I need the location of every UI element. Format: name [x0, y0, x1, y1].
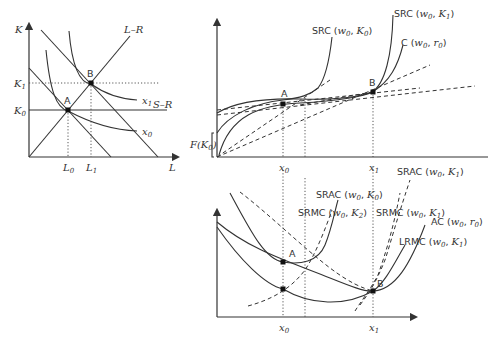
svg-text:K0: K0	[13, 105, 26, 118]
svg-text:x1: x1	[369, 322, 379, 335]
short-run-label: S–R	[153, 99, 173, 110]
economics-figure: K L L–R S–R x1 x0 K1 K0 L0 L1 A B	[0, 0, 488, 347]
src-k0-label: SRC (w0, K0)	[312, 25, 372, 38]
svg-text:x0: x0	[279, 162, 290, 175]
l-axis-label: L	[168, 162, 176, 173]
point-b	[371, 90, 376, 95]
svg-text:F(K0): F(K0)	[189, 139, 217, 152]
point-a-label: A	[289, 248, 296, 259]
long-run-label: L–R	[123, 24, 144, 35]
ac-label: AC (w0, r0)	[431, 216, 483, 229]
isoquant-panel: K L L–R S–R x1 x0 K1 K0 L0 L1 A B	[13, 24, 176, 175]
svg-text:L0: L0	[62, 162, 75, 175]
svg-text:x1: x1	[142, 95, 152, 108]
lr-cost-label: C (w0, r0)	[401, 37, 446, 50]
src-k1-label: SRC (w0, K1)	[394, 8, 454, 21]
srmc-k2-label: SRMC (w0, K2)	[298, 207, 367, 220]
k-axis-label: K	[14, 24, 23, 35]
total-cost-panel: F(K0) SRC (w0, K0) SRC (w0, K1) C (w0, r…	[189, 8, 488, 175]
srac-k0-curve	[230, 193, 338, 263]
point-a-lower	[281, 287, 286, 292]
unit-cost-panel: SRAC (w0, K0) SRAC (w0, K1) SRMC (w0, K2…	[217, 166, 483, 335]
srac-k0-label: SRAC (w0, K0)	[316, 189, 383, 202]
lrmc-label: LRMC (w0, K1)	[399, 236, 467, 249]
isoquant-x1	[69, 31, 137, 100]
src-k0-curve	[217, 37, 332, 133]
point-a-label: A	[281, 88, 288, 99]
point-b-label: B	[377, 278, 384, 289]
svg-text:A: A	[64, 95, 71, 106]
point-a-lower	[281, 102, 286, 107]
fixed-cost-label: F(K	[189, 139, 209, 150]
point-b-label: B	[369, 77, 376, 88]
svg-text:K1: K1	[13, 78, 26, 91]
point-b	[371, 289, 376, 294]
point-b	[89, 81, 94, 86]
svg-text:x1: x1	[369, 162, 379, 175]
point-a	[66, 108, 71, 113]
point-a	[281, 260, 286, 265]
svg-text:x0: x0	[279, 322, 290, 335]
svg-text:L1: L1	[85, 162, 97, 175]
isocost-line-1	[41, 30, 158, 157]
svg-text:B: B	[87, 68, 94, 79]
srac-k1-label: SRAC (w0, K1)	[397, 166, 464, 179]
svg-text:x0: x0	[142, 126, 153, 139]
